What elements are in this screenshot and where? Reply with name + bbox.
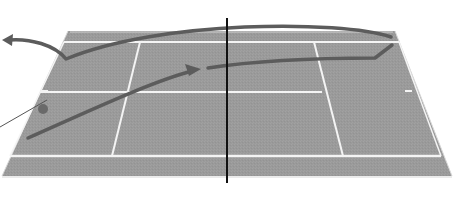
diagram-container: Tennis court shot trajectory diagram [0, 0, 454, 211]
tennis-court-diagram [0, 0, 454, 211]
tennis-ball-icon [38, 104, 48, 114]
